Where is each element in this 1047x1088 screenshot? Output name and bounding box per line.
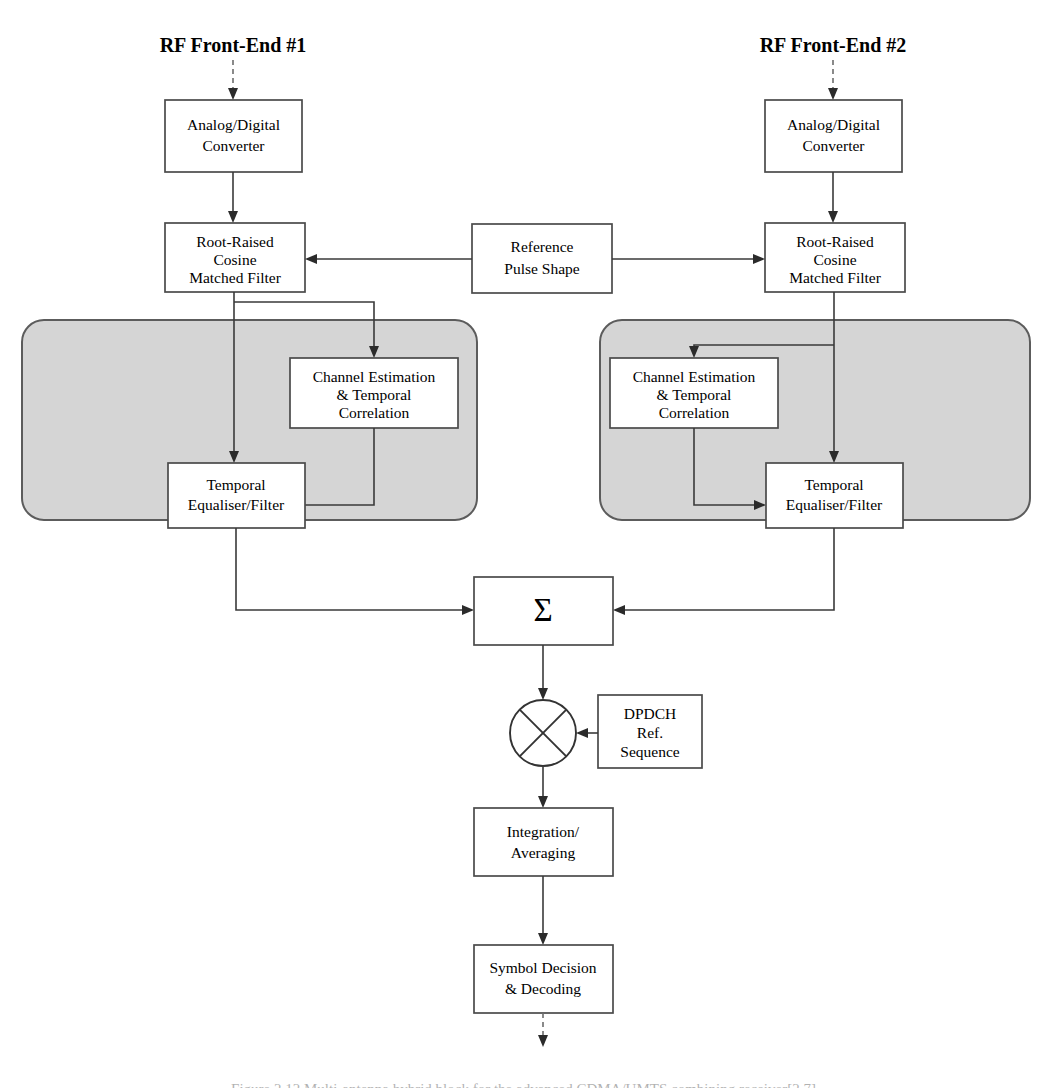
block-channel-estimation-1-line3: Correlation	[339, 404, 410, 421]
block-adc-1-line2: Converter	[203, 137, 266, 154]
block-temporal-equaliser-1-line1: Temporal	[206, 476, 265, 493]
block-dpdch-ref-sequence-line3: Sequence	[620, 743, 680, 760]
block-rrc-filter-2-line3: Matched Filter	[789, 269, 882, 286]
block-adc-2-line1: Analog/Digital	[787, 116, 880, 133]
arrow-multiplier-to-integration	[538, 796, 548, 808]
arrow-sum-to-multiplier	[538, 688, 548, 700]
block-integration-averaging-line2: Averaging	[511, 844, 576, 861]
block-channel-estimation-2-line2: & Temporal	[657, 386, 732, 403]
block-rrc-filter-2-line1: Root-Raised	[796, 233, 874, 250]
block-temporal-equaliser-2-line2: Equaliser/Filter	[786, 496, 883, 513]
diagram-canvas: RF Front-End #1 Analog/Digital Converter…	[0, 0, 1047, 1088]
header-rf-front-end-2: RF Front-End #2	[760, 34, 907, 56]
block-adc-1-line1: Analog/Digital	[187, 116, 280, 133]
block-temporal-equaliser-2-line1: Temporal	[804, 476, 863, 493]
block-summation-symbol: Σ	[533, 592, 552, 628]
arrow-reference-to-rrc1	[305, 254, 317, 264]
arrow-symbol-output	[538, 1035, 548, 1047]
block-symbol-decision-decoding-line2: & Decoding	[505, 980, 581, 997]
block-symbol-decision-decoding-line1: Symbol Decision	[489, 959, 596, 976]
header-rf-front-end-1: RF Front-End #1	[160, 34, 307, 56]
figure-block-diagram: RF Front-End #1 Analog/Digital Converter…	[0, 0, 1047, 1088]
block-channel-estimation-2-line3: Correlation	[659, 404, 730, 421]
arrow-integration-to-symbol	[538, 933, 548, 945]
arrow-teq2-to-sum	[613, 605, 625, 615]
arrow-rf1-to-adc	[228, 88, 238, 100]
block-rrc-filter-1-line1: Root-Raised	[196, 233, 274, 250]
block-temporal-equaliser-1-line2: Equaliser/Filter	[188, 496, 285, 513]
block-rrc-filter-1-line3: Matched Filter	[189, 269, 282, 286]
block-channel-estimation-1-line1: Channel Estimation	[313, 368, 436, 385]
block-rrc-filter-1-line2: Cosine	[213, 251, 256, 268]
block-integration-averaging	[474, 808, 613, 876]
wire-teq2-to-sum	[621, 528, 834, 610]
block-rrc-filter-2-line2: Cosine	[813, 251, 856, 268]
block-dpdch-ref-sequence-line2: Ref.	[637, 724, 663, 741]
arrow-adc1-to-rrc1	[228, 211, 238, 223]
wire-teq1-to-sum	[236, 528, 466, 610]
block-channel-estimation-2-line1: Channel Estimation	[633, 368, 756, 385]
block-integration-averaging-line1: Integration/	[507, 823, 580, 840]
arrow-teq1-to-sum	[462, 605, 474, 615]
arrow-adc2-to-rrc2	[828, 211, 838, 223]
block-channel-estimation-1-line2: & Temporal	[337, 386, 412, 403]
block-reference-pulse-shape-line2: Pulse Shape	[504, 260, 579, 277]
block-reference-pulse-shape-line1: Reference	[511, 238, 574, 255]
block-reference-pulse-shape	[472, 224, 612, 293]
arrow-rf2-to-adc	[828, 88, 838, 100]
arrow-reference-to-rrc2	[753, 254, 765, 264]
figure-caption: Figure 2.12 Multi-antenna hybrid block f…	[0, 1074, 1047, 1088]
block-dpdch-ref-sequence-line1: DPDCH	[624, 705, 677, 722]
block-adc-2-line2: Converter	[803, 137, 866, 154]
arrow-dpdch-to-multiplier	[576, 728, 588, 738]
